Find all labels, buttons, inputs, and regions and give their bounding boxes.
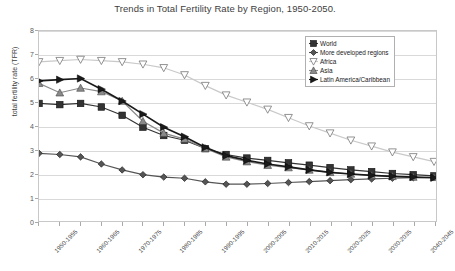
x-axis-tick-label: 2030-2035	[387, 228, 413, 254]
x-axis-tick-mark	[268, 222, 269, 226]
legend-label: More developed regions	[320, 48, 389, 57]
x-axis-tick-mark	[142, 222, 143, 226]
x-axis-tick-label: 2010-2015	[303, 228, 329, 254]
x-axis-tick-mark	[289, 222, 290, 226]
x-axis-tick-mark	[184, 222, 185, 226]
x-axis-tick-label: 1960-1965	[94, 228, 120, 254]
data-point	[119, 167, 126, 174]
x-axis: 1950-19551960-19651970-19751980-19851990…	[38, 222, 437, 271]
legend-marker-icon	[309, 57, 318, 66]
y-axis-tick-label: 7	[30, 51, 34, 58]
data-point	[77, 75, 84, 82]
data-point	[181, 72, 189, 79]
legend-label: Asia	[320, 66, 332, 75]
data-point	[119, 112, 126, 119]
data-point	[77, 100, 84, 107]
x-axis-tick-mark	[351, 222, 352, 226]
data-point	[140, 124, 147, 131]
legend-item[interactable]: Africa	[309, 57, 390, 66]
data-point	[264, 106, 272, 113]
y-axis-tick-label: 8	[30, 27, 34, 34]
series-latin-america-caribbean	[39, 75, 436, 182]
y-axis-label: total fertility rate (TFR)	[11, 22, 18, 142]
y-axis-tick-label: 6	[30, 75, 34, 82]
data-point	[430, 158, 436, 165]
x-axis-tick-mark	[372, 222, 373, 226]
legend-marker-icon	[309, 39, 318, 48]
x-axis-tick-mark	[163, 222, 164, 226]
y-axis-tick-label: 3	[30, 147, 34, 154]
data-point	[39, 150, 42, 157]
legend-item[interactable]: Latin America/Caribbean	[309, 75, 390, 84]
data-point	[264, 180, 271, 187]
x-axis-tick-mark	[331, 222, 332, 226]
data-point	[202, 179, 209, 186]
x-axis-tick-label: 2020-2025	[345, 228, 371, 254]
legend-item[interactable]: World	[309, 39, 390, 48]
data-point	[244, 181, 251, 188]
chart-legend: WorldMore developed regionsAfricaAsiaLat…	[305, 36, 395, 87]
x-axis-tick-mark	[310, 222, 311, 226]
y-axis-tick-label: 2	[30, 171, 34, 178]
data-point	[223, 181, 230, 188]
x-axis-tick-mark	[393, 222, 394, 226]
y-axis: 012345678	[0, 30, 38, 222]
data-point	[98, 104, 105, 111]
x-axis-tick-mark	[122, 222, 123, 226]
x-axis-tick-label: 1990-1995	[220, 228, 246, 254]
x-axis-tick-mark	[80, 222, 81, 226]
legend-item[interactable]: Asia	[309, 66, 390, 75]
data-point	[201, 82, 209, 89]
chart-title: Trends in Total Fertility Rate by Region…	[0, 3, 450, 14]
data-point	[160, 174, 167, 181]
legend-label: Latin America/Caribbean	[320, 75, 390, 84]
legend-label: World	[320, 39, 337, 48]
legend-marker-icon	[309, 66, 318, 75]
x-axis-tick-mark	[59, 222, 60, 226]
y-axis-tick-label: 4	[30, 123, 34, 130]
data-point	[57, 101, 64, 108]
data-point	[77, 84, 85, 91]
series-line	[39, 103, 434, 175]
data-point	[140, 171, 147, 178]
x-axis-tick-mark	[205, 222, 206, 226]
data-point	[181, 175, 188, 182]
x-axis-tick-mark	[435, 222, 436, 226]
x-axis-tick-mark	[414, 222, 415, 226]
data-point	[57, 151, 64, 158]
y-axis-tick-label: 1	[30, 195, 34, 202]
x-axis-tick-mark	[226, 222, 227, 226]
data-point	[327, 177, 334, 184]
data-point	[98, 161, 105, 168]
x-axis-tick-label: 1950-1955	[53, 228, 79, 254]
series-more-developed-regions	[39, 150, 436, 187]
x-axis-tick-label: 1980-1985	[178, 228, 204, 254]
legend-marker-icon	[309, 48, 318, 57]
data-point	[222, 92, 230, 99]
series-world	[39, 100, 436, 179]
x-axis-tick-label: 1970-1975	[136, 228, 162, 254]
x-axis-tick-mark	[101, 222, 102, 226]
data-point	[285, 179, 292, 186]
x-axis-tick-mark	[38, 222, 39, 226]
data-point	[39, 100, 42, 107]
y-axis-tick-label: 5	[30, 99, 34, 106]
legend-marker-icon	[309, 75, 318, 84]
x-axis-tick-label: 2000-2005	[262, 228, 288, 254]
data-point	[77, 154, 84, 161]
data-point	[57, 76, 64, 83]
x-axis-tick-mark	[247, 222, 248, 226]
x-axis-tick-label: 2040-2045	[429, 228, 455, 254]
data-point	[160, 65, 168, 72]
data-point	[305, 123, 313, 130]
y-axis-tick-label: 0	[30, 219, 34, 226]
data-point	[285, 114, 293, 121]
legend-item[interactable]: More developed regions	[309, 48, 390, 57]
series-asia	[39, 79, 436, 180]
data-point	[306, 178, 313, 185]
legend-label: Africa	[320, 57, 336, 66]
data-point	[243, 99, 251, 106]
data-point	[326, 130, 334, 137]
